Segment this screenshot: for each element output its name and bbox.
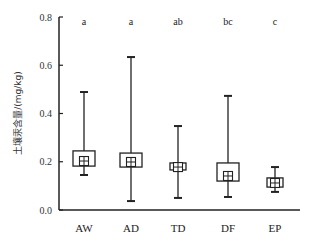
- significance-letter: ab: [173, 16, 182, 27]
- y-axis-label: 土壤汞含量/(mg/kg): [12, 71, 23, 155]
- y-tick-label: 0.6: [40, 60, 53, 71]
- boxes: [73, 57, 283, 201]
- significance-letter: a: [82, 16, 87, 27]
- y-tick-label: 0.4: [40, 108, 53, 119]
- axes: [59, 17, 300, 210]
- y-tick-label: 0.0: [40, 205, 53, 216]
- significance-letter: c: [273, 16, 278, 27]
- x-tick-label: AD: [123, 222, 139, 234]
- y-tick-label: 0.8: [40, 12, 53, 23]
- box-df: [217, 96, 239, 197]
- box-ep: [267, 167, 283, 192]
- x-tick-label: AW: [75, 222, 93, 234]
- box-ad: [120, 57, 142, 201]
- x-tick-label: EP: [269, 222, 282, 234]
- y-tick-label: 0.2: [40, 156, 53, 167]
- x-tick-labels: AWADTDDFEP: [75, 222, 281, 234]
- box-aw: [73, 92, 95, 175]
- significance-labels: aaabbcc: [82, 16, 278, 27]
- x-tick-label: TD: [171, 222, 186, 234]
- significance-letter: bc: [223, 16, 233, 27]
- box-plot-chart: 0.00.20.40.60.8 AWADTDDFEP aaabbcc 土壤汞含量…: [0, 0, 311, 242]
- x-tick-label: DF: [221, 222, 235, 234]
- significance-letter: a: [129, 16, 134, 27]
- box-td: [170, 126, 186, 198]
